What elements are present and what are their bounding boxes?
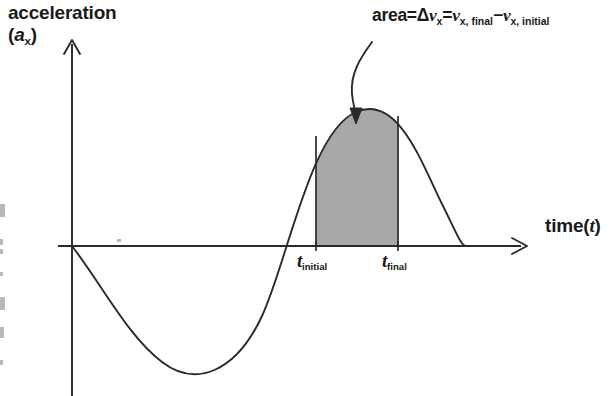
delta-symbol: Δ [417,5,429,25]
acceleration-curve [72,109,466,374]
v-final-subscript: x, final [460,15,493,27]
y-axis-title: acceleration (ax) [8,2,117,46]
x-axis [58,238,527,254]
tick-final-subscript: final [387,261,407,272]
tick-label-t-final: tfinal [382,250,407,271]
acceleration-time-graph-figure: acceleration (ax) time(t) area=Δvx=vx, f… [0,0,614,396]
annotation-minus: − [493,5,503,25]
scan-fragment [0,360,3,365]
scan-fragment [0,297,5,310]
y-axis-paren-close: ) [31,24,37,45]
x-axis-title-text: time( [545,215,589,236]
y-axis-subscript: x [25,35,31,47]
plot-canvas [0,0,614,396]
annotation-equals: = [442,5,452,25]
tick-label-t-initial: tinitial [297,250,327,271]
scan-fragment [0,272,3,276]
v-final-symbol: v [452,5,459,25]
scan-fragment [117,239,121,242]
scan-fragment [0,204,5,217]
v-initial-subscript: x, initial [510,15,549,27]
area-annotation: area=Δvx=vx, final−vx, initial [372,6,549,26]
scan-fragment [0,249,3,254]
delta-v-subscript: x [436,15,442,27]
y-axis-title-line1: acceleration [8,2,117,23]
shaded-area-region [72,109,466,378]
x-axis-title: time(t) [545,215,601,236]
y-axis-symbol: a [14,24,24,45]
tick-initial-subscript: initial [302,261,327,272]
scan-fragment [0,239,3,245]
scan-fragment [0,327,4,338]
y-axis [64,40,80,396]
area-annotation-word: area= [372,5,417,25]
x-axis-paren-close: ) [595,215,601,236]
y-axis-title-line2: (ax) [8,24,117,45]
